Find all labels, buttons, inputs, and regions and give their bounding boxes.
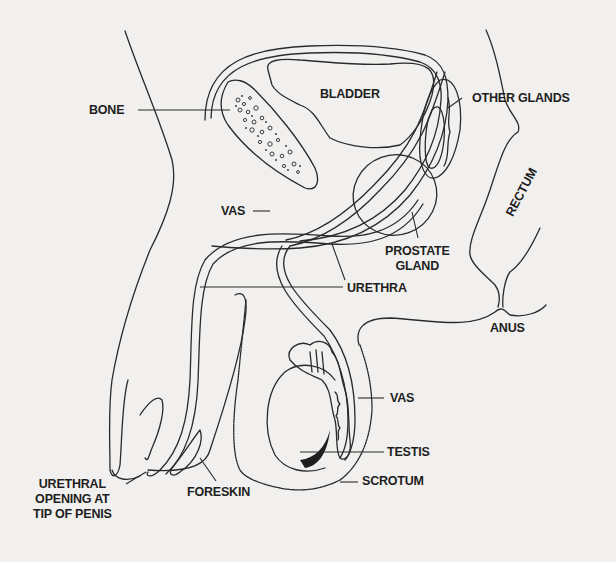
label-prostate-line2: GLAND — [385, 259, 450, 274]
foreskin-inner — [170, 430, 201, 475]
pelvic-outline-inner — [211, 53, 441, 241]
label-prostate-gland: PROSTATE GLAND — [385, 244, 450, 274]
leader-urethra-2 — [332, 244, 345, 280]
label-anus: ANUS — [490, 321, 525, 336]
rectum-front-wall — [470, 30, 519, 307]
label-other-glands: OTHER GLANDS — [472, 91, 570, 106]
label-foreskin: FORESKIN — [187, 485, 250, 500]
label-bone: BONE — [89, 103, 124, 118]
label-urethral-opening: URETHRAL OPENING AT TIP OF PENIS — [33, 477, 112, 522]
label-vas-lower: VAS — [390, 391, 414, 406]
leader-urethral-opening — [126, 472, 146, 484]
rectum-back-wall — [503, 228, 540, 307]
label-prostate-line1: PROSTATE — [385, 244, 450, 259]
penis-top — [140, 398, 163, 459]
label-testis: TESTIS — [387, 445, 430, 460]
label-urethral-opening-line3: TIP OF PENIS — [33, 507, 112, 522]
bone-outline — [221, 80, 317, 189]
penis-corpus — [148, 294, 246, 471]
label-urethral-opening-line2: OPENING AT — [33, 492, 112, 507]
seminal-vesicle-outer — [420, 79, 461, 178]
label-urethral-opening-line1: URETHRAL — [33, 477, 112, 492]
prostate-outline — [342, 143, 448, 247]
testis-shading — [300, 430, 330, 468]
leader-foreskin — [200, 458, 216, 481]
label-vas-upper: VAS — [221, 204, 245, 219]
label-scrotum: SCROTUM — [362, 474, 424, 489]
label-bladder: BLADDER — [320, 87, 380, 102]
epididymis-outline — [289, 341, 350, 459]
body-outline — [110, 31, 174, 476]
testis-outline — [267, 365, 335, 471]
bone-pores — [236, 97, 299, 174]
label-urethra: URETHRA — [347, 281, 407, 296]
bone-dots — [235, 95, 301, 171]
